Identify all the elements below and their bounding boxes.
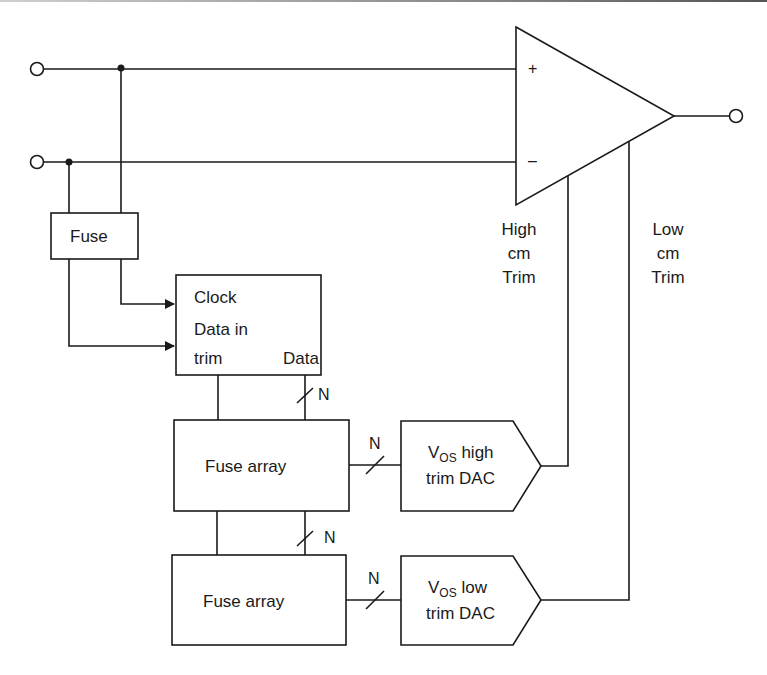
high-cm-trim-line3: Trim [494, 266, 544, 290]
opamp-plus-label: + [528, 61, 537, 77]
dac-low-subscript: OS [439, 586, 456, 600]
data-label: Data [283, 350, 319, 367]
fuse-array-2-label: Fuse array [203, 593, 284, 610]
high-cm-trim-line2: cm [494, 242, 544, 266]
bus-label-1: N [318, 387, 330, 403]
dac-high-line1: VOS high [428, 444, 494, 464]
fuse-array-1-label: Fuse array [205, 458, 286, 475]
dac-low-shape [401, 556, 541, 645]
low-cm-trim-line2: cm [643, 242, 693, 266]
data-in-label: Data in [194, 321, 248, 338]
trim-label: trim [194, 350, 222, 367]
dac-low-line1: VOS low [428, 579, 487, 599]
dac-low-line2: trim DAC [426, 605, 495, 622]
input-terminal-plus [31, 63, 44, 76]
wire-low-cm-trim [541, 142, 629, 600]
high-cm-trim-label: High cm Trim [494, 218, 544, 290]
dac-high-subscript: OS [439, 451, 456, 465]
wire-fuse-to-clock [121, 259, 174, 304]
low-cm-trim-line3: Trim [643, 266, 693, 290]
dac-high-v: V [428, 443, 439, 462]
low-cm-trim-label: Low cm Trim [643, 218, 693, 290]
dac-low-v: V [428, 578, 439, 597]
low-cm-trim-line1: Low [643, 218, 693, 242]
output-terminal [730, 110, 743, 123]
input-terminal-minus [31, 156, 44, 169]
dac-low-word: low [457, 578, 487, 597]
wire-high-cm-trim [541, 176, 568, 466]
dac-high-shape [401, 421, 541, 511]
fuse-label: Fuse [70, 228, 108, 245]
dac-high-word: high [457, 443, 494, 462]
bus-label-3: N [369, 436, 381, 452]
opamp-minus-label: – [528, 153, 537, 169]
bus-label-2: N [324, 530, 336, 546]
bus-label-4: N [368, 571, 380, 587]
diagram-canvas: + – High cm Trim Low cm Trim Fuse Clock … [0, 0, 767, 675]
dac-high-line2: trim DAC [426, 470, 495, 487]
clock-label: Clock [194, 289, 237, 306]
opamp-triangle [516, 27, 674, 205]
high-cm-trim-line1: High [494, 218, 544, 242]
circuit-wiring [0, 0, 767, 675]
